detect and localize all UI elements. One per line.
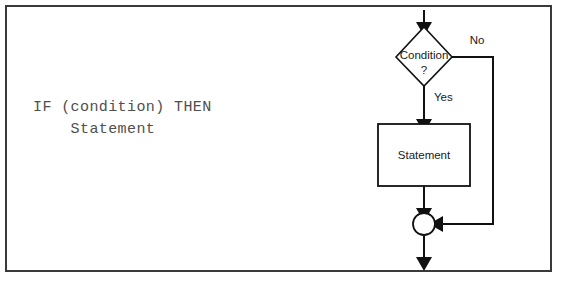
node-condition-label-line2: ? xyxy=(421,64,427,76)
edge-yes-branch-label: Yes xyxy=(434,91,453,103)
node-merge xyxy=(413,213,435,235)
diagram-canvas: IF (condition) THEN Statement Condition … xyxy=(0,0,565,282)
edge-no-branch-label: No xyxy=(470,34,485,46)
node-statement-label: Statement xyxy=(398,149,451,161)
flowchart-graphic: Condition ? No Yes Statement xyxy=(0,0,565,282)
node-condition-label-line1: Condition xyxy=(400,49,449,61)
